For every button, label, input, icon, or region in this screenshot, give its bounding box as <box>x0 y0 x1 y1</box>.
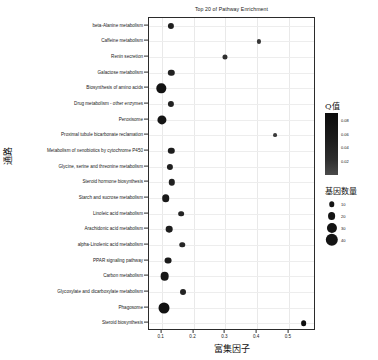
data-point <box>273 133 277 137</box>
y-axis-tick-mark <box>144 56 148 57</box>
color-legend-title: Q值 <box>325 100 377 111</box>
size-legend-row: 40 <box>325 234 377 246</box>
gridline-horizontal <box>149 167 314 168</box>
y-axis-tick-mark <box>144 228 148 229</box>
data-point <box>168 179 174 185</box>
data-point <box>168 148 174 154</box>
x-axis-title: 富集因子 <box>148 342 315 355</box>
data-point <box>159 302 170 313</box>
data-point <box>157 115 166 124</box>
data-point <box>168 101 174 107</box>
x-axis-tick-label: 0.4 <box>253 334 259 339</box>
gridline-horizontal <box>149 26 314 27</box>
size-legend-dot <box>325 210 338 222</box>
y-axis-tick-mark <box>144 118 148 119</box>
colorbar-tick-label: 0.04 <box>341 145 349 150</box>
data-point <box>180 289 186 295</box>
colorbar-wrap: 0.080.060.040.02 <box>325 113 375 175</box>
data-point <box>180 242 186 248</box>
y-axis-title: 通路 <box>1 147 14 165</box>
plot-area <box>148 17 315 330</box>
color-legend: Q值 0.080.060.040.02 <box>325 100 377 175</box>
x-axis-tick-label: 0.3 <box>221 334 227 339</box>
pathway-enrichment-chart: Top 20 of Pathway Enrichment beta-Alanin… <box>0 0 378 360</box>
gridline-horizontal <box>149 41 314 42</box>
chart-title: Top 20 of Pathway Enrichment <box>148 6 315 12</box>
gridline-horizontal <box>149 229 314 230</box>
y-axis-tick-mark <box>144 322 148 323</box>
gridline-horizontal <box>149 120 314 121</box>
size-legend: 基因数量 10203040 <box>325 185 377 246</box>
y-axis-tick-mark <box>144 103 148 104</box>
size-legend-dot <box>325 222 338 234</box>
y-axis-tick-mark <box>144 290 148 291</box>
y-axis-tick-mark <box>144 150 148 151</box>
gridline-horizontal <box>149 135 314 136</box>
gridline-horizontal <box>149 214 314 215</box>
size-legend-title: 基因数量 <box>325 185 377 196</box>
colorbar-tick-label: 0.06 <box>341 131 349 136</box>
gridline-horizontal <box>149 292 314 293</box>
y-axis-ticks <box>0 17 148 330</box>
data-point <box>168 70 174 76</box>
size-legend-label: 40 <box>341 238 345 243</box>
size-legend-row: 30 <box>325 222 377 234</box>
gridline-horizontal <box>149 88 314 89</box>
y-axis-tick-mark <box>144 212 148 213</box>
y-axis-tick-mark <box>144 71 148 72</box>
size-legend-row: 10 <box>325 198 377 210</box>
data-point <box>165 257 172 264</box>
data-point <box>167 164 173 170</box>
data-point <box>162 194 170 202</box>
gridline-vertical-0.4 <box>257 18 258 329</box>
y-axis-tick-mark <box>144 181 148 182</box>
gridline-horizontal <box>149 323 314 324</box>
x-axis-tick-label: 0.1 <box>158 334 164 339</box>
colorbar-gradient <box>325 113 338 175</box>
colorbar-tick-label: 0.08 <box>341 117 349 122</box>
y-axis-tick-mark <box>144 259 148 260</box>
x-axis-tick-mark <box>224 330 225 333</box>
size-legend-rows: 10203040 <box>325 198 377 246</box>
data-point <box>166 226 173 233</box>
size-legend-label: 30 <box>341 226 345 231</box>
y-axis-tick-mark <box>144 244 148 245</box>
y-axis-tick-mark <box>144 134 148 135</box>
data-point <box>168 23 174 29</box>
size-legend-dot <box>325 198 338 210</box>
data-point <box>223 55 228 60</box>
gridline-vertical-0.2 <box>194 18 195 329</box>
gridline-horizontal <box>149 57 314 58</box>
gridline-horizontal <box>149 308 314 309</box>
data-point <box>157 84 166 93</box>
y-axis-tick-mark <box>144 197 148 198</box>
gridline-horizontal <box>149 276 314 277</box>
x-axis-tick-label: 0.5 <box>285 334 291 339</box>
gridline-vertical-0.1 <box>162 18 163 329</box>
gridline-horizontal <box>149 198 314 199</box>
y-axis-tick-mark <box>144 306 148 307</box>
gridline-vertical-0.3 <box>225 18 226 329</box>
gridline-horizontal <box>149 261 314 262</box>
x-axis-tick-mark <box>160 330 161 333</box>
gridline-vertical-0.5 <box>289 18 290 329</box>
data-point <box>178 211 184 217</box>
data-point <box>160 272 169 281</box>
y-axis-tick-mark <box>144 165 148 166</box>
y-axis-tick-mark <box>144 87 148 88</box>
y-axis-tick-mark <box>144 24 148 25</box>
y-axis-tick-mark <box>144 40 148 41</box>
gridline-horizontal <box>149 245 314 246</box>
size-legend-row: 20 <box>325 210 377 222</box>
x-axis-tick-mark <box>288 330 289 333</box>
data-point <box>301 320 307 326</box>
colorbar-tick-label: 0.02 <box>341 159 349 164</box>
size-legend-label: 10 <box>341 202 345 207</box>
data-point <box>257 39 261 43</box>
x-axis-tick-mark <box>256 330 257 333</box>
x-axis-tick-mark <box>192 330 193 333</box>
x-axis-tick-label: 0.2 <box>189 334 195 339</box>
size-legend-dot <box>325 234 338 246</box>
y-axis-tick-mark <box>144 275 148 276</box>
size-legend-label: 20 <box>341 214 345 219</box>
